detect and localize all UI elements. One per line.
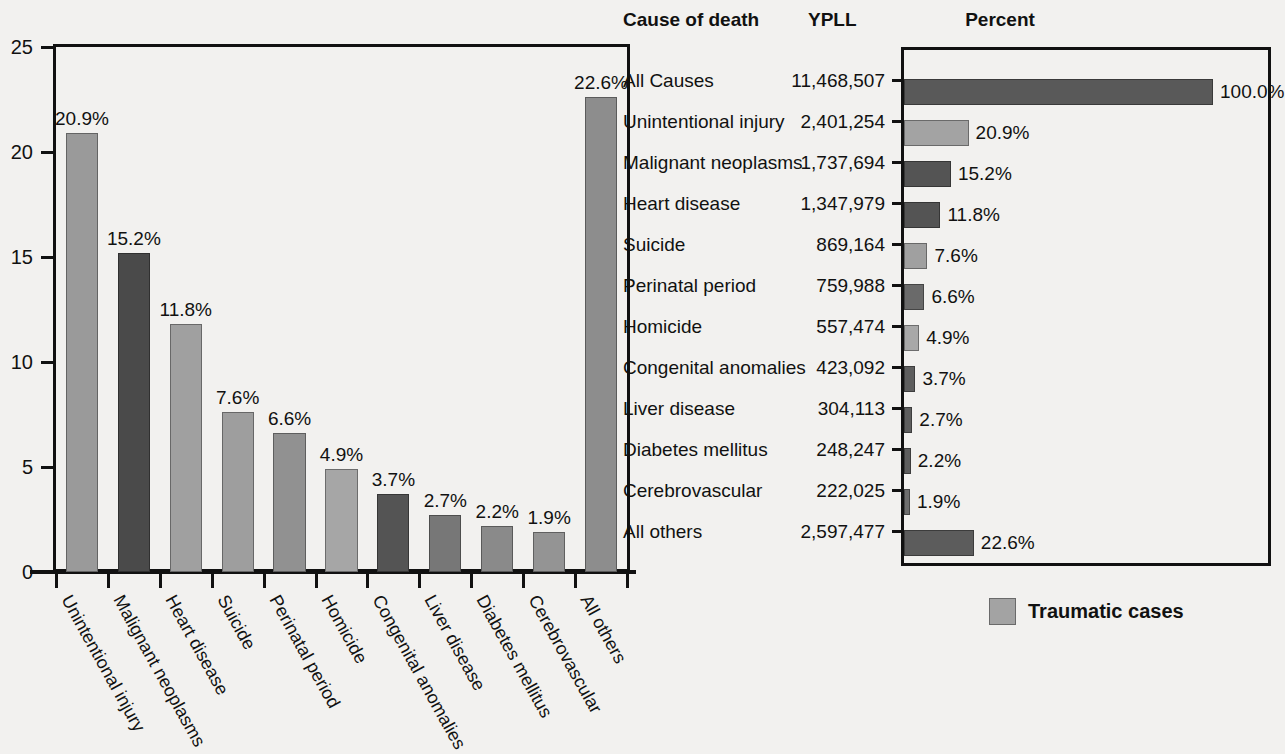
horizontal-bar[interactable]: [904, 325, 919, 351]
horizontal-bar-value-label: 4.9%: [926, 325, 969, 351]
horizontal-bar-value-label: 100.0%: [1220, 79, 1284, 105]
horizontal-bar-value-label: 22.6%: [981, 530, 1035, 556]
horizontal-bar[interactable]: [904, 202, 940, 228]
horizontal-bar[interactable]: [904, 448, 911, 474]
horizontal-bar[interactable]: [904, 366, 915, 392]
legend-label-traumatic-cases: Traumatic cases: [1028, 600, 1184, 623]
horizontal-bar[interactable]: [904, 243, 927, 269]
legend-swatch-traumatic-cases: [989, 598, 1016, 625]
horizontal-bar-value-label: 20.9%: [976, 120, 1030, 146]
horizontal-bar-value-label: 7.6%: [934, 243, 977, 269]
horizontal-bar[interactable]: [904, 530, 974, 556]
horizontal-bar[interactable]: [904, 489, 910, 515]
horizontal-bar-value-label: 2.7%: [919, 407, 962, 433]
horizontal-bar-value-label: 11.8%: [947, 202, 999, 228]
horizontal-bar-value-label: 6.6%: [931, 284, 974, 310]
horizontal-bar-value-label: 1.9%: [917, 489, 960, 515]
horizontal-bar[interactable]: [904, 407, 912, 433]
percent-horizontal-bar-chart: Percent 100.0%20.9%15.2%11.8%7.6%6.6%4.9…: [0, 0, 1285, 754]
chart-legend: Traumatic cases: [989, 598, 1184, 625]
horizontal-bar[interactable]: [904, 120, 969, 146]
horizontal-bar[interactable]: [904, 284, 924, 310]
horizontal-bar-value-label: 15.2%: [958, 161, 1012, 187]
percent-chart-title: Percent: [965, 9, 1035, 31]
horizontal-bar[interactable]: [904, 79, 1213, 105]
horizontal-bar-value-label: 2.2%: [918, 448, 961, 474]
chart-page: 0510152025 20.9%15.2%11.8%7.6%6.6%4.9%3.…: [0, 0, 1285, 754]
horizontal-bar[interactable]: [904, 161, 951, 187]
horizontal-bar-value-label: 3.7%: [922, 366, 965, 392]
